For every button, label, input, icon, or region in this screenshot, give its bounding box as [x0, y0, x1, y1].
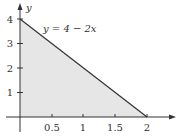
- svg-text:1: 1: [80, 122, 86, 133]
- svg-text:1.5: 1.5: [107, 122, 123, 133]
- svg-text:2: 2: [144, 122, 150, 133]
- equation-label: y = 4 − 2x: [42, 23, 97, 34]
- y-axis-label: y: [25, 2, 32, 13]
- x-axis-arrow: [169, 115, 176, 120]
- svg-text:4: 4: [7, 14, 13, 25]
- svg-text:3: 3: [7, 38, 13, 49]
- chart: y 0.5 1 1.5 2 1 2 3 4 y = 4 − 2x: [0, 0, 179, 139]
- svg-text:1: 1: [7, 87, 13, 98]
- svg-text:2: 2: [7, 63, 13, 74]
- svg-text:0.5: 0.5: [44, 122, 60, 133]
- y-axis-arrow: [18, 3, 23, 10]
